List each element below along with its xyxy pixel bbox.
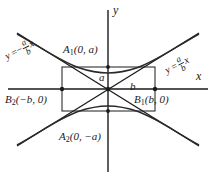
point-label-a1-coords: (0, a) — [74, 43, 98, 55]
segment-label-b: b — [130, 81, 136, 92]
point-label-b1-base: B — [134, 93, 141, 105]
segment-label-a: a — [99, 72, 105, 83]
point-label-b2-coords: (−b, 0) — [16, 93, 47, 105]
point-label-a2: A2(0, −a) — [59, 131, 101, 144]
point-label-b2-base: B — [5, 93, 12, 105]
point-label-a2-base: A — [59, 130, 66, 142]
point-label-b2: B2(−b, 0) — [5, 94, 47, 107]
point-marker-origin — [106, 87, 110, 91]
point-marker-a2 — [106, 109, 110, 113]
point-label-b1: B1(b, 0) — [134, 94, 169, 107]
point-label-b1-coords: (b, 0) — [145, 93, 169, 105]
hyperbola-diagram-canvas — [0, 0, 217, 177]
point-marker-b1 — [153, 87, 157, 91]
y-axis-label: y — [113, 4, 118, 16]
point-marker-a1 — [106, 65, 110, 69]
point-marker-b2 — [60, 87, 64, 91]
point-label-a2-coords: (0, −a) — [70, 130, 101, 142]
point-label-a1: A1(0, a) — [63, 44, 98, 57]
hyperbola-figure: y x A1(0, a) A2(0, −a) B1(b, 0) B2(−b, 0… — [0, 0, 217, 177]
x-axis-label: x — [196, 70, 201, 82]
point-label-a1-base: A — [63, 43, 70, 55]
